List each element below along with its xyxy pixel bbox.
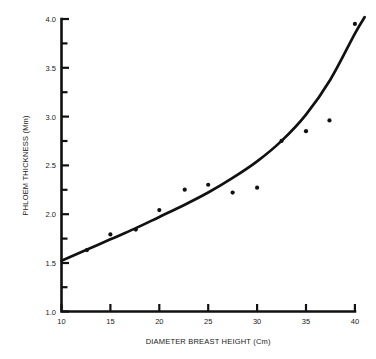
x-axis-title: DIAMETER BREAST HEIGHT (Cm) xyxy=(146,337,271,346)
x-tick-label-20: 20 xyxy=(155,317,163,326)
data-point xyxy=(255,186,259,190)
data-point xyxy=(108,232,112,236)
data-point xyxy=(157,208,161,212)
data-point xyxy=(134,228,138,232)
data-point xyxy=(304,129,308,133)
data-point xyxy=(279,139,283,143)
y-tick-label-3-5: 3.5 xyxy=(46,64,56,73)
y-tick-label-3-0: 3.0 xyxy=(46,113,56,122)
x-tick-label-15: 15 xyxy=(106,317,114,326)
phloem-thickness-scatter-chart: 4.0 3.5 3.0 2.5 2.0 1.5 1.0 10 15 20 25 … xyxy=(0,0,376,359)
y-tick-label-1-5: 1.5 xyxy=(46,259,56,268)
data-point xyxy=(183,188,187,192)
x-tick-label-40: 40 xyxy=(351,317,359,326)
y-tick-label-2-0: 2.0 xyxy=(46,210,56,219)
x-tick-label-30: 30 xyxy=(253,317,261,326)
x-tick-label-25: 25 xyxy=(204,317,212,326)
x-tick-label-10: 10 xyxy=(57,317,65,326)
y-tick-label-1-0: 1.0 xyxy=(46,308,56,317)
y-tick-label-2-5: 2.5 xyxy=(46,161,56,170)
data-point xyxy=(231,190,235,194)
data-point xyxy=(206,183,210,187)
chart-background xyxy=(0,0,376,359)
y-tick-label-4-0: 4.0 xyxy=(46,15,56,24)
data-point xyxy=(327,118,331,122)
data-point xyxy=(85,248,89,252)
y-axis-title: PHLOEM THICKNESS (Mm) xyxy=(21,115,30,216)
data-point xyxy=(353,22,357,26)
x-tick-label-35: 35 xyxy=(302,317,310,326)
